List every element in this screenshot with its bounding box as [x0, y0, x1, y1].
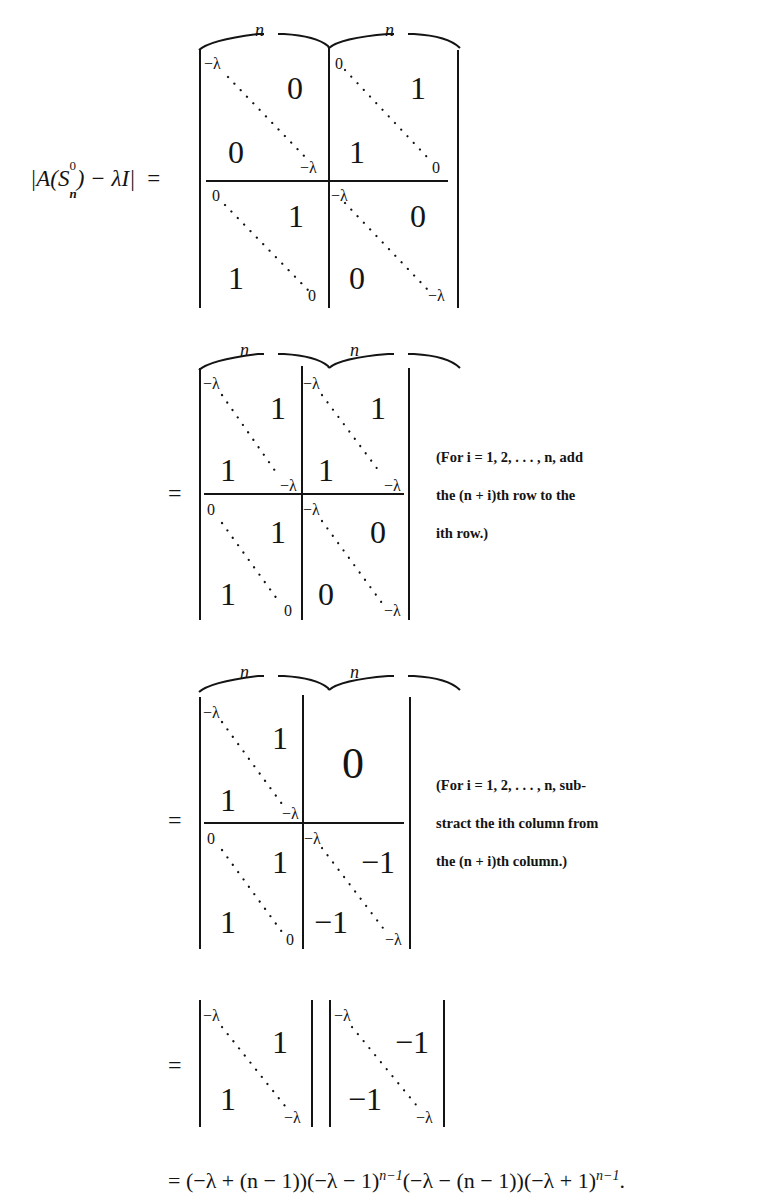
dotted-diagonal — [0, 0, 777, 1200]
entry-lower: 1 — [220, 1083, 236, 1115]
entry-diag-start: −λ — [334, 1008, 351, 1024]
entry-diag-end: −λ — [416, 1110, 433, 1126]
final-result: = (−λ + (n − 1))(−λ − 1)n−1(−λ − (n − 1)… — [168, 1168, 625, 1194]
entry-diag-start: −λ — [203, 1008, 220, 1024]
final-exponent: n−1 — [379, 1168, 402, 1183]
final-exponent: n−1 — [596, 1168, 619, 1183]
final-period: . — [619, 1168, 625, 1193]
entry-lower: −1 — [348, 1083, 382, 1115]
entry-diag-end: −λ — [284, 1110, 301, 1126]
entry-upper: −1 — [395, 1026, 429, 1058]
final-text: (−λ − (n − 1))(−λ + 1) — [403, 1168, 596, 1193]
final-text: = (−λ + (n − 1))(−λ − 1) — [168, 1168, 379, 1193]
entry-upper: 1 — [272, 1026, 288, 1058]
